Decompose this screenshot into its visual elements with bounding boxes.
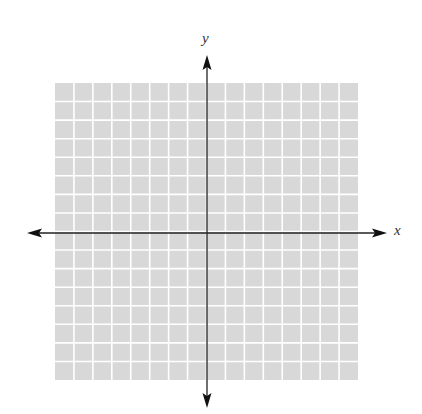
x-axis-label: x <box>394 222 401 239</box>
y-axis-label: y <box>202 30 209 47</box>
coordinate-plane: x y <box>0 0 422 414</box>
coordinate-plane-svg <box>0 0 422 414</box>
